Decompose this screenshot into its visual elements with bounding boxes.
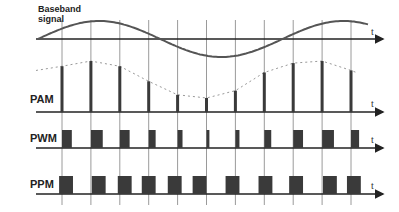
pam-pulse [292, 63, 295, 112]
pulse-modulation-diagram: Baseband signal PAM PWM PPM t t t t [0, 0, 399, 212]
ppm-pulse [259, 176, 273, 194]
pwm-pulse [235, 130, 239, 148]
pam-envelope [36, 61, 358, 98]
ppm-pulse [226, 176, 240, 194]
pam-pulse [147, 81, 150, 112]
pwm-pulse [293, 130, 303, 148]
ppm-pulse [289, 176, 303, 194]
pwm-pulse [62, 130, 72, 148]
baseband-panel [36, 21, 383, 57]
pwm-pulse [149, 130, 156, 148]
ppm-panel [36, 176, 383, 194]
pwm-pulse [91, 130, 103, 148]
pwm-pulse [264, 130, 271, 148]
pwm-time-axis-label: t [371, 134, 374, 145]
pwm-pulse [322, 130, 334, 148]
pwm-pulse [207, 130, 210, 148]
ppm-pulse [118, 176, 132, 194]
pwm-pulse [351, 130, 359, 148]
pam-pulse [89, 61, 92, 112]
pam-pulse [234, 91, 237, 112]
pam-pulse [205, 98, 208, 112]
ppm-time-axis-label: t [371, 180, 374, 191]
pam-pulse [321, 61, 324, 112]
ppm-pulse [347, 176, 361, 194]
pam-time-axis-label: t [371, 98, 374, 109]
baseband-label: Baseband signal [38, 4, 98, 24]
ppm-pulse [59, 176, 73, 194]
pwm-label: PWM [30, 132, 57, 144]
ppm-pulse [323, 176, 337, 194]
pam-pulse [350, 70, 353, 112]
ppm-pulse [92, 176, 106, 194]
diagram-canvas [0, 0, 399, 212]
ppm-pulse [193, 176, 207, 194]
pam-pulse [263, 72, 266, 112]
pam-pulse [61, 66, 64, 112]
baseband-time-axis-label: t [371, 26, 374, 37]
ppm-pulse [168, 176, 182, 194]
pwm-pulse [120, 130, 130, 148]
pam-pulse [176, 95, 179, 112]
pwm-panel [36, 130, 383, 148]
ppm-pulse [142, 176, 156, 194]
pam-pulse [118, 66, 121, 112]
pam-panel [36, 61, 383, 112]
pwm-pulse [178, 130, 183, 148]
ppm-label: PPM [30, 178, 54, 190]
pam-label: PAM [30, 93, 54, 105]
